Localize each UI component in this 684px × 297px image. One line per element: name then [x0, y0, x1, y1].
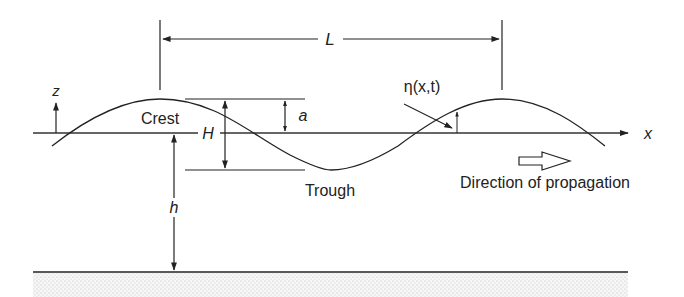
propagation-label: Direction of propagation [460, 174, 630, 191]
depth-dimension: h [170, 135, 179, 270]
wave-height-dimension: H [198, 101, 225, 168]
hollow-arrow-icon [519, 152, 570, 170]
z-axis: z [51, 82, 60, 133]
surface-elevation-annotation: η(x,t) [404, 78, 457, 133]
wavelength-label: L [325, 30, 334, 49]
amplitude-label: a [299, 107, 308, 124]
x-axis-label: x [643, 125, 653, 142]
trough-label: Trough [305, 182, 355, 199]
amplitude-dimension: a [285, 101, 308, 131]
depth-label: h [170, 199, 179, 216]
wavelength-dimension: L [160, 20, 502, 90]
seabed [33, 272, 628, 297]
crest-label: Crest [141, 110, 180, 127]
surface-elevation-label: η(x,t) [404, 78, 440, 95]
wave-diagram: L z x Crest Trough H a h η(x,t) Directio… [0, 0, 684, 297]
wave-height-label: H [202, 125, 214, 142]
z-axis-label: z [51, 82, 60, 99]
propagation-direction: Direction of propagation [460, 152, 630, 191]
